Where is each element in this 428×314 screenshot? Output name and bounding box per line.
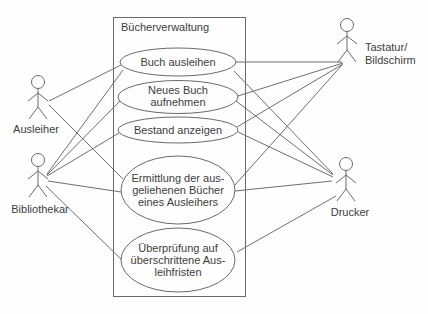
- usecase-bestand-anzeigen: Bestand anzeigen: [118, 117, 238, 143]
- actor-ausleiher-label: Ausleiher: [13, 123, 59, 135]
- actor-ausleiher-stick-figure-icon: [28, 76, 48, 120]
- usecase-ermittlung-label-line1: Ermittlung der aus-: [132, 172, 225, 184]
- actor-bibliothekar-stick-figure-icon: [28, 154, 48, 198]
- use-case-diagram: Bücherverwaltung Buch ausleihen Neues Bu…: [0, 0, 428, 314]
- association-ausleiher-buch-ausleihen: [49, 65, 121, 101]
- usecase-ueberpruefung-label-line3: leihfristen: [154, 266, 201, 278]
- association-drucker-buch-ausleihen: [234, 71, 333, 174]
- usecase-buch-ausleihen: Buch ausleihen: [120, 48, 236, 76]
- actor-tastatur-label-line2: Bildschirm: [365, 54, 416, 66]
- usecase-ueberpruefung: Überprüfung auf überschrittene Aus- leih…: [121, 228, 235, 292]
- usecase-ermittlung-label-line2: geliehenen Bücher: [132, 184, 224, 196]
- association-drucker-ueberpruefung: [237, 196, 336, 252]
- usecase-ueberpruefung-label-line1: Überprüfung auf: [138, 242, 218, 254]
- actor-tastatur-label-line1: Tastatur/: [365, 41, 408, 53]
- association-drucker-ermittlung: [235, 181, 332, 191]
- association-bibliothekar-ueberpruefung: [46, 186, 124, 262]
- association-bibliothekar-buch-ausleihen: [47, 70, 123, 174]
- actor-drucker-label: Drucker: [331, 206, 370, 218]
- actor-drucker-stick-figure-icon: [336, 158, 356, 202]
- usecase-ermittlung: Ermittlung der aus- geliehenen Bücher ei…: [121, 156, 235, 224]
- usecase-ermittlung-label-line3: eines Ausleihers: [138, 196, 219, 208]
- usecase-neues-buch-aufnehmen: Neues Buch aufnehmen: [118, 81, 238, 114]
- association-tastatur-bestand: [237, 64, 343, 127]
- usecase-neues-buch-label-line1: Neues Buch: [148, 84, 208, 96]
- actor-drucker: Drucker: [331, 158, 370, 219]
- actor-bibliothekar: Bibliothekar: [11, 154, 69, 216]
- association-bibliothekar-neues-buch: [47, 101, 120, 175]
- actor-tastatur-stick-figure-icon: [337, 19, 357, 63]
- usecase-buch-ausleihen-label: Buch ausleihen: [140, 56, 215, 68]
- actor-ausleiher: Ausleiher: [13, 76, 59, 136]
- usecase-bestand-label: Bestand anzeigen: [134, 124, 222, 136]
- actor-bibliothekar-label: Bibliothekar: [11, 203, 69, 215]
- usecase-neues-buch-label-line2: aufnehmen: [150, 96, 205, 108]
- usecase-ueberpruefung-label-line2: überschrittene Aus-: [131, 254, 226, 266]
- actor-tastatur-bildschirm: Tastatur/ Bildschirm: [337, 19, 416, 67]
- system-title: Bücherverwaltung: [121, 21, 209, 33]
- association-bibliothekar-ermittlung: [48, 181, 121, 192]
